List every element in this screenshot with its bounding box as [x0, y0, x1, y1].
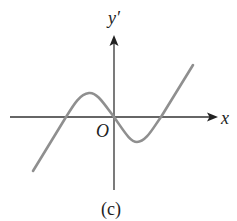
y-axis-label: y′ [106, 8, 121, 28]
derivative-curve [33, 65, 193, 171]
graph-svg: y′ x O (c) [0, 0, 237, 221]
figure-caption: (c) [101, 199, 121, 220]
origin-label: O [96, 121, 109, 141]
derivative-graph-figure: y′ x O (c) [0, 0, 237, 221]
x-axis-label: x [220, 108, 229, 128]
